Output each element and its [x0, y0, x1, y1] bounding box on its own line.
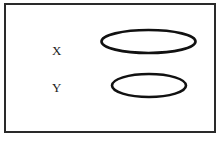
ellipse-x [102, 30, 196, 53]
label-x: X [52, 44, 61, 57]
diagram-shapes [0, 0, 218, 144]
ellipse-y [112, 74, 186, 97]
label-y: Y [52, 81, 61, 94]
